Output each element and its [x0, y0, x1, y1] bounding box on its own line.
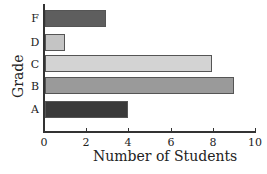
bar-c [45, 55, 212, 72]
x-tick-label-0: 0 [34, 136, 54, 149]
x-tick-6 [171, 128, 172, 132]
y-axis-title: Grade [10, 58, 26, 98]
bar-b [45, 77, 234, 94]
bar-chart: Grade F D C B A 0 2 4 6 8 10 Number of S… [0, 0, 267, 174]
category-label-b: B [28, 78, 42, 95]
x-tick-2 [86, 128, 87, 132]
bar-a [45, 101, 128, 118]
x-tick-0 [44, 128, 45, 132]
bar-d [45, 34, 65, 51]
category-label-c: C [28, 56, 42, 73]
x-axis-title: Number of Students [93, 148, 237, 164]
x-tick-8 [213, 128, 214, 132]
x-tick-label-10: 10 [245, 136, 265, 149]
x-tick-4 [128, 128, 129, 132]
category-label-d: D [28, 34, 42, 51]
x-axis-line [43, 131, 256, 133]
category-label-f: F [28, 10, 42, 27]
category-label-a: A [28, 101, 42, 118]
x-tick-10 [255, 128, 256, 132]
bar-f [45, 10, 106, 27]
